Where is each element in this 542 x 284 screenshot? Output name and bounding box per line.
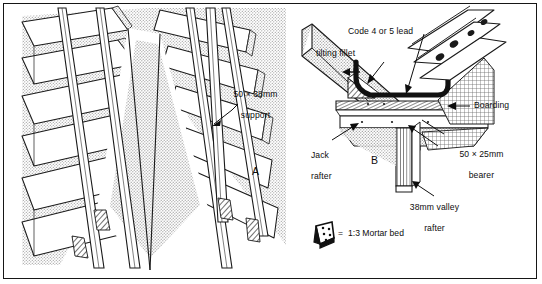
panel-b-section-detail: Code 4 or 5 lead tilting fillet Boarding… bbox=[288, 0, 542, 284]
legend-mortar-bed: = 1:3 Mortar bed bbox=[338, 228, 404, 238]
label-jack-rafter: Jack rafter bbox=[296, 140, 332, 192]
panel-a-isometric-valley: 50 × 38mm support A bbox=[0, 0, 288, 284]
label-jack-rafter-line2: rafter bbox=[311, 171, 332, 181]
mortar-bed-swatch bbox=[314, 222, 334, 248]
label-jack-rafter-line1: Jack bbox=[311, 150, 329, 160]
label-bearer-line1: 50 × 25mm bbox=[459, 149, 503, 159]
legend-label: 1:3 Mortar bed bbox=[348, 228, 404, 238]
label-valley-rafter-line1: 38mm valley bbox=[410, 202, 459, 212]
figure-root: 50 × 38mm support A bbox=[0, 0, 542, 284]
label-support-line2: support bbox=[241, 110, 270, 120]
label-tilting-fillet: tilting fillet bbox=[316, 48, 355, 58]
label-boarding: Boarding bbox=[474, 100, 509, 110]
marker-a: A bbox=[252, 166, 259, 176]
legend-equals: = bbox=[338, 228, 343, 238]
label-bearer: 50 × 25mm bearer bbox=[438, 139, 510, 191]
label-support-line1: 50 × 38mm bbox=[233, 89, 277, 99]
label-support: 50 × 38mm support bbox=[209, 79, 287, 131]
label-valley-rafter-line2: rafter bbox=[424, 223, 445, 233]
label-bearer-line2: bearer bbox=[469, 170, 494, 180]
marker-b: B bbox=[371, 155, 378, 165]
panel-a-drawing bbox=[0, 0, 288, 284]
label-lead: Code 4 or 5 lead bbox=[348, 26, 413, 36]
